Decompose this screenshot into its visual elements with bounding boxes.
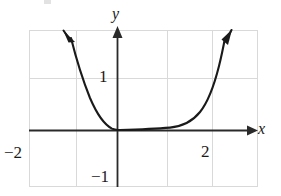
x-axis (29, 126, 258, 136)
y-tick-label-1: 1 (99, 68, 108, 85)
x-tick-label-2: 2 (201, 143, 210, 160)
grid-lines (29, 30, 258, 187)
plotted-curve (63, 30, 232, 131)
y-tick-label-negative-1: −1 (91, 168, 109, 185)
plot-canvas (0, 0, 281, 196)
graph-figure: y x −2 2 1 −1 (0, 0, 281, 196)
x-axis-label: x (258, 121, 265, 137)
x-tick-label-negative-2: −2 (4, 144, 22, 161)
y-axis (113, 26, 123, 187)
y-axis-label: y (112, 6, 119, 22)
